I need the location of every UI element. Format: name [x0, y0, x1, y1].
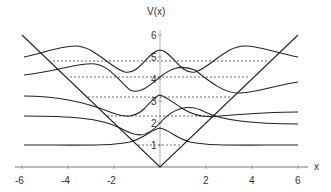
- chart: V(x) x -6 -4 -2 2 4 6 1 2 3 4 5 6: [0, 0, 331, 192]
- y-tick-label: 1: [151, 140, 157, 151]
- x-axis-label: x: [314, 161, 319, 172]
- x-tick-label: 4: [249, 175, 255, 186]
- x-tick-label: -2: [107, 175, 116, 186]
- x-tick-label: -6: [15, 175, 24, 186]
- x-tick-label: 6: [295, 175, 301, 186]
- y-tick-label: 3: [151, 96, 157, 107]
- x-tick-label: 2: [203, 175, 209, 186]
- y-tick-label: 6: [151, 30, 157, 41]
- y-axis-label: V(x): [147, 6, 165, 17]
- x-tick-label: -4: [61, 175, 70, 186]
